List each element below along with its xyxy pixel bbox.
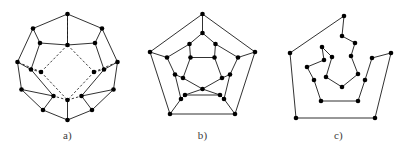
vertex-h7 — [363, 78, 368, 83]
edge-12 — [216, 44, 239, 58]
vertex-h10 — [312, 78, 317, 83]
visible-edge-1 — [68, 14, 103, 29]
vertex-h3 — [294, 116, 299, 121]
vertex-ring-4 — [218, 93, 223, 98]
hidden-edge-1 — [68, 45, 95, 72]
figure-c-caption: c) — [270, 129, 407, 142]
edge-0 — [150, 14, 203, 52]
vertex-h20 — [340, 34, 345, 39]
figure-a-graph — [0, 0, 135, 129]
vertex-ring-3 — [228, 72, 233, 77]
edge-7 — [238, 52, 255, 58]
vertex-h4 — [373, 116, 378, 121]
edge-2 — [150, 52, 170, 114]
visible-edge-9 — [68, 110, 93, 120]
vertex-mid-2 — [38, 41, 43, 46]
vertex-h13 — [320, 45, 325, 50]
vertex-outer-9 — [90, 108, 95, 113]
cycle-edge-13 — [326, 57, 332, 77]
vertex-h2 — [288, 51, 293, 56]
cycle-edge-16 — [351, 56, 358, 74]
figure-panel: a) b) c) — [0, 0, 407, 156]
visible-edge-5 — [114, 62, 118, 90]
vertex-mid-6 — [51, 94, 56, 99]
visible-edge-10 — [33, 29, 40, 44]
vertex-ring-6 — [173, 72, 178, 77]
edge-17 — [175, 75, 181, 100]
visible-edge-22 — [43, 96, 54, 110]
cycle-edge-5 — [365, 58, 372, 80]
vertex-outer-4 — [15, 60, 20, 65]
visible-edge-7 — [92, 90, 114, 111]
visible-edge-4 — [18, 62, 22, 90]
edge-10 — [190, 33, 203, 44]
vertex-outer-bottom-right — [233, 112, 238, 117]
visible-edge-19 — [95, 43, 104, 70]
vertex-ring-1 — [187, 42, 192, 47]
vertex-outer-2 — [31, 26, 36, 31]
figure-b-graph — [135, 0, 270, 129]
cycle-edge-6 — [358, 80, 365, 101]
visible-edge-3 — [102, 29, 118, 63]
vertex-mid-3 — [93, 41, 98, 46]
vertex-spoke-right — [236, 55, 241, 60]
visible-edge-0 — [33, 14, 68, 29]
edge-29 — [203, 78, 223, 89]
visible-edge-12 — [40, 43, 68, 45]
vertex-inner-left — [181, 76, 186, 81]
visible-edge-15 — [104, 62, 118, 70]
vertex-mid-5 — [102, 67, 107, 72]
edge-8 — [170, 99, 181, 114]
edge-31 — [183, 58, 191, 79]
visible-edge-11 — [95, 29, 102, 44]
vertex-h16 — [340, 85, 345, 90]
vertex-outer-bottom-left — [168, 112, 173, 117]
figure-b-caption: b) — [135, 129, 270, 142]
vertex-outer-right — [253, 50, 258, 55]
vertex-h18 — [349, 54, 354, 59]
vertex-inner-top-left — [188, 55, 193, 60]
vertex-mid-7 — [79, 94, 84, 99]
vertex-h17 — [356, 72, 361, 77]
vertex-spoke-bottom-left — [179, 97, 184, 102]
vertex-inner-bottom — [200, 87, 205, 92]
vertex-inner-3 — [92, 70, 97, 75]
figure-c-hamiltonian-cycle: c) — [270, 0, 407, 156]
visible-edge-6 — [22, 90, 44, 111]
vertex-spoke-bottom-right — [222, 97, 227, 102]
edge-1 — [203, 14, 256, 52]
cycle-edge-10 — [307, 60, 324, 67]
vertex-outer-5 — [115, 60, 120, 65]
edge-30 — [183, 78, 203, 89]
vertex-outer-8 — [41, 108, 46, 113]
visible-edge-2 — [18, 29, 34, 63]
vertex-spoke-top — [200, 31, 205, 36]
vertex-h5 — [389, 51, 394, 56]
edge-24 — [185, 89, 203, 95]
edge-9 — [224, 99, 235, 114]
vertex-inner-2 — [39, 70, 44, 75]
edge-14 — [224, 75, 230, 100]
cycle-edge-0 — [290, 16, 344, 53]
vertex-h15 — [324, 75, 329, 80]
edge-18 — [167, 58, 175, 75]
edge-19 — [167, 44, 190, 58]
vertex-outer-top — [200, 12, 205, 17]
vertex-inner-top-right — [212, 55, 217, 60]
edge-3 — [235, 52, 255, 114]
visible-edge-13 — [68, 43, 96, 45]
vertex-ring-5 — [183, 93, 188, 98]
hidden-edge-0 — [41, 45, 68, 72]
visible-edge-18 — [31, 43, 40, 70]
vertex-mid-4 — [29, 67, 34, 72]
vertex-outer-6 — [19, 87, 24, 92]
vertex-h11 — [305, 65, 310, 70]
vertex-h6 — [370, 56, 375, 61]
vertex-outer-3 — [100, 26, 105, 31]
edge-23 — [203, 89, 221, 95]
figure-a-caption: a) — [0, 129, 135, 142]
vertex-inner-right — [220, 76, 225, 81]
edge-28 — [215, 58, 223, 79]
vertex-ring-2 — [213, 42, 218, 47]
vertex-mid-1 — [65, 43, 70, 48]
